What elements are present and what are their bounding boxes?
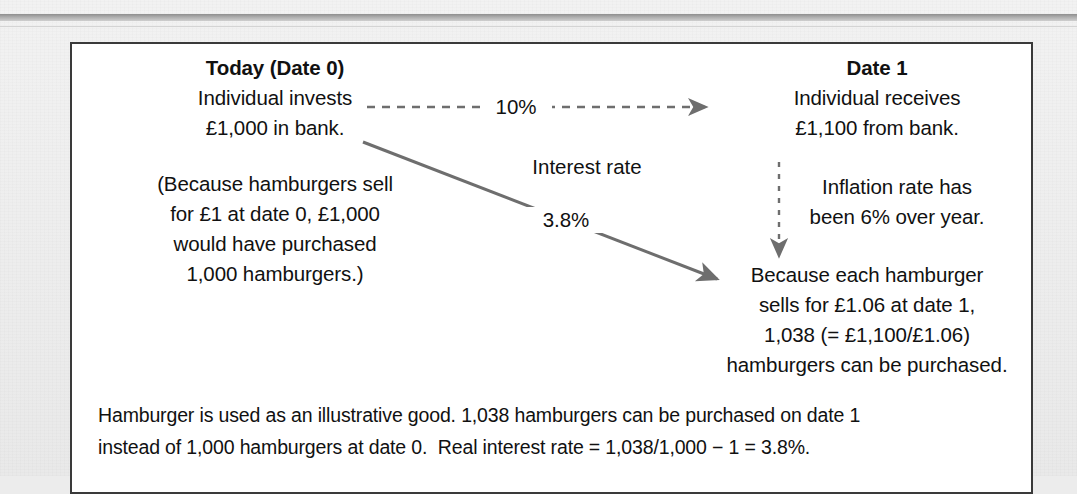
page-top-rule (0, 14, 1077, 21)
nominal-rate-label: 10% (480, 94, 552, 120)
interest-rate-caption: Interest rate (507, 154, 667, 180)
figure-box: Today (Date 0) Individual invests £1,000… (70, 42, 1033, 494)
page-top-hairline (0, 26, 1077, 27)
real-rate-label: 3.8% (524, 207, 608, 233)
figure-inner: Today (Date 0) Individual invests £1,000… (72, 44, 1031, 492)
